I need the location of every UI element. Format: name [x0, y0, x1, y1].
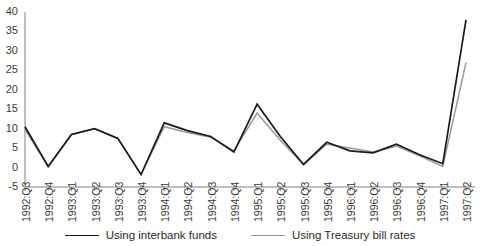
series-line [25, 20, 466, 175]
legend-label: Using interbank funds [106, 229, 217, 241]
x-tick-label: 1993:Q3 [114, 182, 124, 222]
x-tick-label: 1996:Q3 [392, 182, 402, 222]
y-tick-label: 5 [0, 142, 18, 153]
x-tick-label: 1994:Q3 [207, 182, 217, 222]
y-tick-label: 15 [0, 103, 18, 114]
x-tick-label: 1995:Q4 [323, 182, 333, 222]
x-tick-label: 1996:Q4 [416, 182, 426, 222]
legend-item: Using interbank funds [65, 229, 217, 241]
x-tick-label: 1996:Q2 [369, 182, 379, 222]
y-tick-label: 25 [0, 64, 18, 75]
x-tick-label: 1995:Q3 [300, 182, 310, 222]
x-tick-label: 1995:Q1 [253, 182, 263, 222]
x-tick-label: 1994:Q2 [183, 182, 193, 222]
series-lines [25, 20, 466, 175]
line-chart: 4035302520151050-5 1992:Q31992:Q41993:Q1… [0, 0, 480, 246]
series-line [25, 63, 466, 175]
y-tick-label: 35 [0, 25, 18, 36]
legend-line-icon [65, 235, 99, 236]
y-tick-label: 30 [0, 45, 18, 56]
legend-line-icon [251, 235, 285, 236]
y-tick-label: -5 [0, 181, 18, 192]
x-tick-label: 1997:Q1 [439, 182, 449, 222]
x-tick-label: 1993:Q2 [91, 182, 101, 222]
axis-group [25, 12, 475, 187]
x-tick-label: 1992:Q3 [21, 182, 31, 222]
legend-item: Using Treasury bill rates [251, 229, 415, 241]
x-tick-label: 1994:Q4 [230, 182, 240, 222]
chart-legend: Using interbank fundsUsing Treasury bill… [0, 224, 480, 246]
x-tick-label: 1992:Q4 [44, 182, 54, 222]
x-tick-label: 1993:Q1 [67, 182, 77, 222]
x-tick-label: 1993:Q4 [137, 182, 147, 222]
x-tick-label: 1997:Q2 [462, 182, 472, 222]
x-tick-label: 1994:Q1 [160, 182, 170, 222]
x-tick-label: 1995:Q2 [276, 182, 286, 222]
y-tick-label: 40 [0, 6, 18, 17]
legend-label: Using Treasury bill rates [292, 229, 415, 241]
x-tick-label: 1996:Q1 [346, 182, 356, 222]
y-tick-label: 0 [0, 162, 18, 173]
y-tick-label: 20 [0, 84, 18, 95]
y-tick-label: 10 [0, 123, 18, 134]
